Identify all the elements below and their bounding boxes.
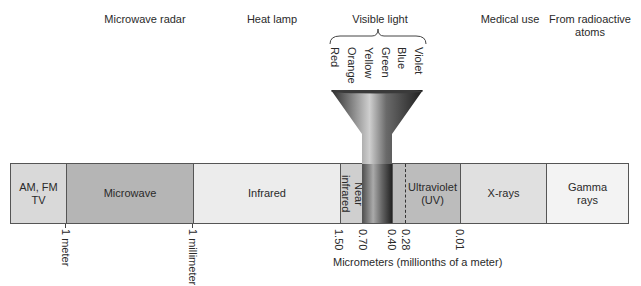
tick-label-0-70: 0.70 xyxy=(357,229,369,250)
segment-microwave: Microwave xyxy=(66,163,193,224)
tick-label-0-40: 0.40 xyxy=(386,229,398,250)
axis-title: Micrometers (millionths of a meter) xyxy=(333,256,502,268)
color-label-violet: Violet xyxy=(413,47,425,74)
color-label-red: Red xyxy=(329,47,341,67)
segment-near-infrared: Near infrared xyxy=(340,163,362,224)
segment-x-rays: X-rays xyxy=(460,163,546,224)
color-label-yellow: Yellow xyxy=(363,47,375,78)
uv-dashed-boundary xyxy=(405,164,406,223)
segment-ultraviolet: Ultraviolet (UV) xyxy=(392,163,460,224)
color-label-blue: Blue xyxy=(396,47,408,69)
label-visible-light: Visible light xyxy=(340,13,420,26)
visible-light-funnel xyxy=(331,90,423,164)
visible-light-brace xyxy=(328,28,428,46)
tick-1-millimeter xyxy=(192,224,193,228)
tick-label-1-meter: 1 meter xyxy=(60,229,72,266)
segment-infrared: Infrared xyxy=(193,163,340,224)
label-radioactive: From radioactive atoms xyxy=(545,13,635,39)
tick-label-0-28: 0.28 xyxy=(400,229,412,250)
segment-visible xyxy=(362,163,392,224)
label-heat-lamp: Heat lamp xyxy=(232,13,312,26)
tick-1-meter xyxy=(65,224,66,228)
tick-label-0-01: 0.01 xyxy=(454,229,466,250)
segment-gamma-rays: Gamma rays xyxy=(546,163,629,224)
tick-label-1-millimeter: 1 millimeter xyxy=(187,229,199,285)
color-label-green: Green xyxy=(380,47,392,78)
tick-label-1-50: 1.50 xyxy=(333,229,345,250)
segment-am-fm-tv: AM, FM TV xyxy=(10,163,66,224)
color-label-orange: Orange xyxy=(346,47,358,84)
label-microwave-radar: Microwave radar xyxy=(100,13,190,26)
label-medical-use: Medical use xyxy=(470,13,550,26)
